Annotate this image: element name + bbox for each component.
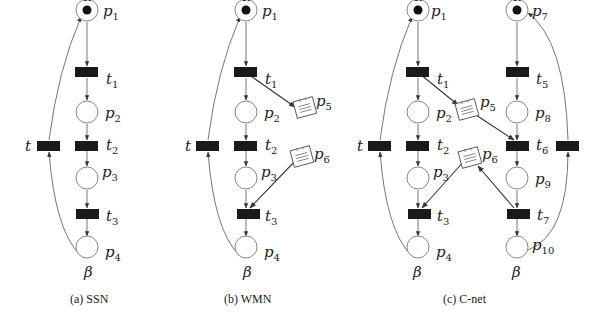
label-p3: p <box>433 163 443 181</box>
svg-text:p3: p3 <box>102 163 118 183</box>
place-p2 <box>235 101 257 123</box>
place-p2 <box>407 101 429 123</box>
token <box>242 6 251 15</box>
svg-text:p5: p5 <box>316 92 332 112</box>
beta-label: β <box>242 263 252 281</box>
message-place-p5-icon <box>293 97 317 119</box>
petri-net-figure: α p1 t1 p2 t2 p3 t3 p4 β t (a) SSN α p1 … <box>0 0 601 320</box>
svg-text:t3: t3 <box>437 207 449 227</box>
transition-t2 <box>234 141 257 151</box>
svg-text:p6: p6 <box>314 145 330 165</box>
svg-text:p4: p4 <box>264 243 280 263</box>
svg-text:p4: p4 <box>105 243 121 263</box>
svg-text:t2: t2 <box>265 136 277 156</box>
svg-text:t1: t1 <box>106 70 118 90</box>
alpha-label: α <box>413 0 423 5</box>
caption-cnet: (c) C-net <box>443 292 487 306</box>
caption-ssn: (a) SSN <box>70 292 109 306</box>
label-p5: p <box>480 93 490 111</box>
svg-text:p1: p1 <box>262 2 278 22</box>
label-p5: p <box>316 92 326 110</box>
svg-text:t2: t2 <box>106 136 118 156</box>
transition-t1 <box>406 67 429 77</box>
svg-text:α: α <box>82 0 92 5</box>
svg-text:p3: p3 <box>433 163 449 183</box>
label-p1: p <box>262 2 272 20</box>
svg-text:t3: t3 <box>106 207 118 227</box>
label-p1: p <box>431 2 441 20</box>
label-p8: p <box>535 104 545 122</box>
message-place-p6-icon <box>458 147 482 169</box>
label-p2: p <box>105 104 115 122</box>
transition-t2 <box>75 141 98 151</box>
place-p4 <box>407 236 429 258</box>
place-p3 <box>407 167 429 189</box>
caption-wmn: (b) WMN <box>224 292 272 306</box>
svg-text:p3: p3 <box>261 163 277 183</box>
label-p4: p <box>436 243 446 261</box>
label-p1: p <box>103 2 113 20</box>
transition-t1 <box>234 67 257 77</box>
place-p10 <box>506 236 528 258</box>
svg-text:t3: t3 <box>265 207 277 227</box>
svg-text:p4: p4 <box>436 243 452 263</box>
message-place-p6-icon <box>290 146 314 168</box>
svg-text:p8: p8 <box>535 104 551 124</box>
transition-t1 <box>75 67 98 77</box>
svg-text:p10: p10 <box>532 236 554 256</box>
token <box>513 6 522 15</box>
place-p3 <box>76 167 98 189</box>
transition-t <box>196 141 219 151</box>
transition-t <box>37 141 60 151</box>
place-p4 <box>76 236 98 258</box>
svg-text:p2: p2 <box>264 104 280 124</box>
svg-text:p2: p2 <box>105 104 121 124</box>
svg-text:p1: p1 <box>103 2 119 22</box>
label-p4: p <box>264 243 274 261</box>
label-p7: p <box>532 2 542 20</box>
svg-text:p2: p2 <box>436 104 452 124</box>
svg-text:t1: t1 <box>265 70 277 90</box>
label-p2: p <box>436 104 446 122</box>
transition-t3 <box>237 209 260 219</box>
transition-t6 <box>506 141 529 151</box>
place-p8 <box>506 101 528 123</box>
svg-text:p5: p5 <box>480 93 496 113</box>
place-p3 <box>235 167 257 189</box>
transition-t5 <box>506 67 529 77</box>
svg-text:p6: p6 <box>482 145 498 165</box>
transition-t2 <box>406 141 429 151</box>
beta-label: β <box>511 263 521 281</box>
transition-t3 <box>76 209 99 219</box>
label-t: t <box>357 137 364 155</box>
place-p4 <box>235 236 257 258</box>
svg-text:t5: t5 <box>536 70 548 90</box>
svg-text:p1: p1 <box>431 2 447 22</box>
place-p2 <box>76 101 98 123</box>
label-p4: p <box>105 243 115 261</box>
alpha-label: α <box>82 0 92 5</box>
token <box>414 6 423 15</box>
svg-text:p9: p9 <box>535 170 551 190</box>
panel-ssn <box>37 0 99 258</box>
beta-label: β <box>412 263 422 281</box>
label-p10: p <box>532 236 542 254</box>
label-p2: p <box>264 104 274 122</box>
svg-text:t7: t7 <box>537 206 549 226</box>
label-t: t <box>25 137 32 155</box>
panel-wmn <box>196 0 317 258</box>
svg-text:p7: p7 <box>532 2 548 22</box>
label-p3: p <box>261 163 271 181</box>
alpha-label: α <box>241 0 251 5</box>
label-p9: p <box>535 170 545 188</box>
message-place-p5-icon <box>455 99 479 121</box>
svg-text:t2: t2 <box>437 136 449 156</box>
transition-t7 <box>507 209 530 219</box>
transition-t <box>368 141 391 151</box>
svg-text:t6: t6 <box>536 136 548 156</box>
beta-label: β <box>83 263 93 281</box>
place-p9 <box>506 167 528 189</box>
transition-t3 <box>408 209 431 219</box>
label-p6: p <box>314 145 324 163</box>
label-p6: p <box>482 145 492 163</box>
